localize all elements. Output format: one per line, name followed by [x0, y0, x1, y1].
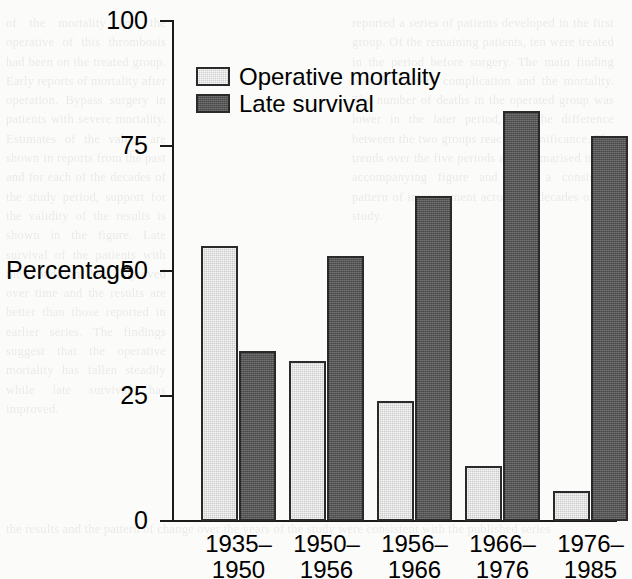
- y-axis-title: Percentage: [6, 258, 134, 283]
- chart-legend: Operative mortalityLate survival: [196, 64, 440, 118]
- bar-operative-mortality-5: [553, 491, 590, 521]
- bar-late-survival-3: [415, 196, 452, 521]
- bar-late-survival-4: [503, 111, 540, 521]
- bar-operative-mortality-1: [201, 246, 238, 521]
- y-tick-mark-0: [160, 520, 173, 522]
- bar-operative-mortality-4: [465, 466, 502, 521]
- legend-swatch-icon: [196, 94, 230, 113]
- bar-operative-mortality-3: [377, 401, 414, 521]
- bar-late-survival-2: [327, 256, 364, 521]
- y-tick-mark-50: [160, 270, 173, 272]
- y-tick-label-75: 75: [0, 133, 148, 158]
- y-tick-label-25: 25: [0, 383, 148, 408]
- legend-item-late-survival: Late survival: [196, 91, 440, 116]
- y-tick-label-0: 0: [0, 508, 148, 533]
- bar-late-survival-5: [591, 136, 628, 521]
- y-tick-mark-25: [160, 395, 173, 397]
- bar-operative-mortality-2: [289, 361, 326, 521]
- x-label-line-2: 1985: [531, 557, 632, 579]
- x-category-label-5: 1976–1985: [531, 531, 632, 579]
- y-tick-label-100: 100: [0, 8, 148, 33]
- bar-late-survival-1: [239, 351, 276, 521]
- x-label-line-1: 1976–: [531, 531, 632, 557]
- y-tick-mark-75: [160, 145, 173, 147]
- legend-item-operative-mortality: Operative mortality: [196, 64, 440, 89]
- legend-swatch-icon: [196, 67, 230, 86]
- y-tick-mark-100: [160, 20, 173, 22]
- legend-label: Late survival: [239, 92, 374, 116]
- legend-label: Operative mortality: [239, 65, 440, 89]
